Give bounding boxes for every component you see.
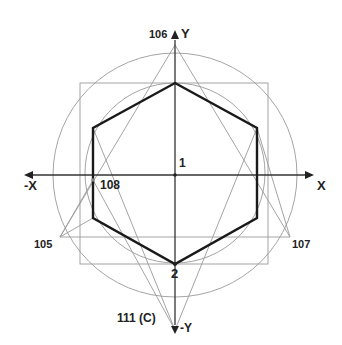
point-108 (91, 178, 95, 182)
construction-line-108 (93, 180, 175, 330)
label-y: Y (181, 26, 190, 41)
neg-y-axis-arrow-icon (171, 326, 179, 334)
label-x: X (317, 178, 326, 193)
label-107: 107 (292, 238, 310, 250)
point-center (173, 173, 177, 177)
y-axis-arrow-icon (171, 30, 179, 39)
label-neg-y: -Y (180, 321, 192, 335)
label-111-c: 111 (C) (117, 311, 156, 325)
x-axis-arrow-icon (305, 171, 314, 179)
hexagon-construction-diagram: 106 Y -X X 1 108 105 107 2 111 (C) -Y (0, 0, 342, 345)
construction-line-105-a (60, 180, 93, 237)
label-106: 106 (149, 28, 167, 40)
label-108: 108 (100, 178, 120, 192)
label-1: 1 (179, 156, 186, 170)
label-105: 105 (34, 238, 52, 250)
label-neg-x: -X (24, 178, 37, 193)
construction-line-107-a (257, 128, 290, 237)
label-2: 2 (171, 266, 178, 281)
